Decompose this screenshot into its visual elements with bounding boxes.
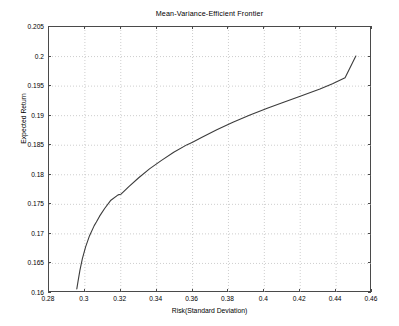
figure-canvas: Mean-Variance-Efficient Frontier 0.160.1… [0,0,399,326]
y-tick-mark [368,174,371,175]
x-tick-label: 0.34 [149,295,162,302]
x-tick-mark [299,26,300,29]
x-tick-mark [120,26,121,29]
x-tick-mark [371,26,372,29]
y-tick-mark [48,203,51,204]
y-tick-mark [368,203,371,204]
y-tick-label: 0.165 [27,259,44,266]
x-tick-label: 0.44 [329,295,342,302]
y-tick-mark [368,85,371,86]
y-tick-mark [48,115,51,116]
x-tick-mark [335,26,336,29]
x-tick-mark [156,289,157,292]
y-tick-label: 0.175 [27,200,44,207]
x-tick-label: 0.36 [185,295,198,302]
chart-title: Mean-Variance-Efficient Frontier [48,9,371,18]
y-tick-label: 0.17 [31,229,44,236]
y-tick-mark [368,115,371,116]
y-tick-mark [48,85,51,86]
y-tick-label: 0.195 [27,82,44,89]
x-tick-mark [263,26,264,29]
y-tick-mark [48,233,51,234]
x-tick-mark [84,289,85,292]
y-tick-mark [48,292,51,293]
x-tick-label: 0.46 [365,295,378,302]
y-tick-mark [368,233,371,234]
y-tick-label: 0.19 [31,111,44,118]
x-tick-label: 0.32 [113,295,126,302]
y-tick-mark [368,262,371,263]
y-tick-mark [48,262,51,263]
y-tick-label: 0.18 [31,170,44,177]
x-tick-label: 0.42 [293,295,306,302]
y-tick-mark [368,56,371,57]
y-tick-mark [48,174,51,175]
x-tick-label: 0.28 [42,295,55,302]
x-tick-mark [227,289,228,292]
y-tick-mark [48,26,51,27]
x-tick-label: 0.4 [259,295,268,302]
y-tick-mark [48,144,51,145]
y-tick-label: 0.205 [27,23,44,30]
x-axis-label: Risk(Standard Deviation) [48,307,371,314]
y-axis-label: Expected Return [20,74,27,164]
x-tick-mark [192,26,193,29]
y-tick-label: 0.185 [27,141,44,148]
x-tick-mark [299,289,300,292]
efficient-frontier-curve [77,56,356,289]
gridlines-vertical [85,27,336,293]
plot-area [48,26,371,292]
x-tick-mark [227,26,228,29]
y-tick-mark [368,144,371,145]
x-tick-mark [84,26,85,29]
x-tick-mark [263,289,264,292]
y-tick-label: 0.2 [35,52,44,59]
x-tick-mark [156,26,157,29]
y-tick-mark [368,292,371,293]
plot-svg [49,27,372,293]
x-tick-label: 0.38 [221,295,234,302]
x-tick-label: 0.3 [79,295,88,302]
y-tick-mark [368,26,371,27]
x-tick-mark [192,289,193,292]
y-tick-mark [48,56,51,57]
x-tick-mark [335,289,336,292]
x-tick-mark [371,289,372,292]
x-tick-mark [120,289,121,292]
